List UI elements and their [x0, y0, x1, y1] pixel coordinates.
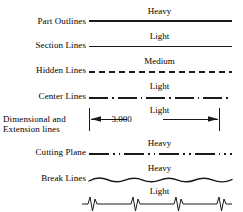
row-part-outlines: Heavy Part Outlines [0, 0, 243, 26]
line-sample-part-outlines [0, 0, 243, 26]
line-sample-cutting-plane [0, 135, 243, 160]
dimension-value-text: 3.000 [0, 114, 243, 124]
row-break-lines-zigzag: Light [0, 186, 243, 212]
row-center-lines: Light Center Lines [0, 77, 243, 103]
row-dimensional-extension-lines: Light Dimensional and Extension lines 3.… [0, 103, 243, 135]
row-hidden-lines: Medium Hidden Lines [0, 51, 243, 77]
line-sample-center-lines [0, 77, 243, 103]
line-sample-section-lines [0, 26, 243, 51]
row-break-lines-wavy: Heavy Break Lines [0, 160, 243, 186]
row-section-lines: Light Section Lines [0, 26, 243, 51]
line-sample-break-lines-zigzag [0, 186, 243, 212]
line-sample-hidden-lines [0, 51, 243, 77]
row-cutting-plane: Heavy Cutting Plane [0, 135, 243, 160]
alphabet-of-lines-diagram: Heavy Part Outlines Light Section Lines … [0, 0, 243, 212]
line-sample-break-lines-wavy [0, 160, 243, 186]
